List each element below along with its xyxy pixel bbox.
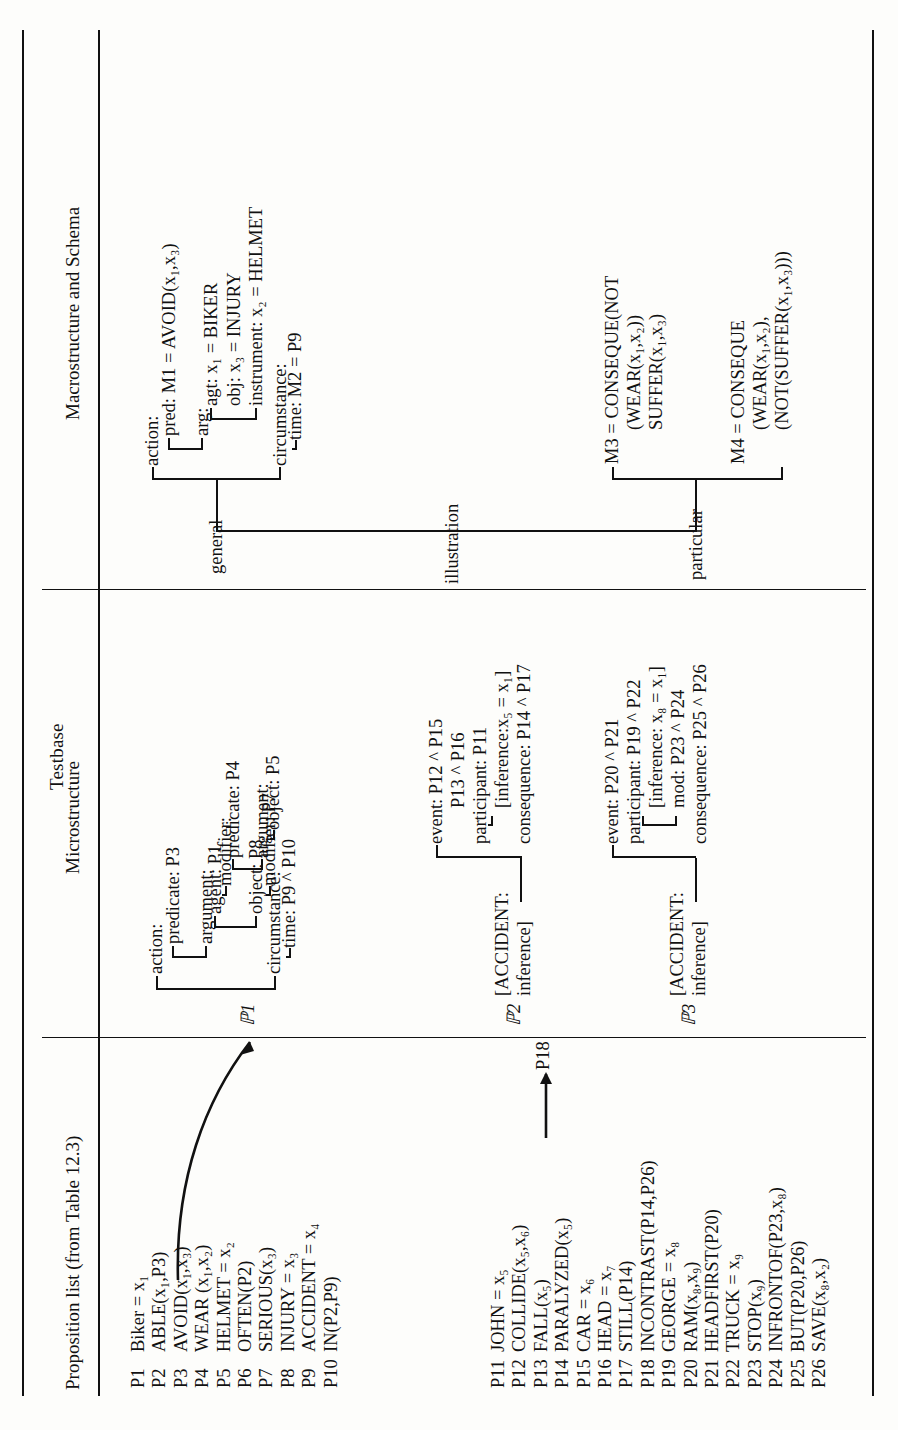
macro-node-time: time: M2 = P9 <box>285 332 306 440</box>
macro-particular-bracket-bottom <box>781 467 783 480</box>
p3-node-consequence: consequence: P25 ^ P26 <box>690 664 711 844</box>
macro-node-pred: pred: M1 = AVOID(x₁,x₃) <box>159 243 180 436</box>
p3-participant-arm-bottom <box>675 816 677 826</box>
p3-head-line-1: [ACCIDENT: <box>667 892 688 996</box>
macro-branch-particular: particular <box>686 509 707 580</box>
figure-page: Testbase Proposition list (from Table 12… <box>0 0 898 1430</box>
macro-node-agt: agt: x₁ = BIKER <box>201 283 222 406</box>
macro-general-bracket-bottom <box>279 467 281 480</box>
macro-node-instrument: instrument: x₂ = HELMET <box>246 207 267 406</box>
macro-general-bracket-stem <box>152 479 280 481</box>
macro-m3-line-3: SUFFER(x₁,x₃) <box>646 314 667 430</box>
p3-root-bracket-stem <box>612 857 696 859</box>
macro-arg-bracket-stem <box>210 419 256 421</box>
macro-arm-general <box>216 480 218 532</box>
p3-root-bracket-top <box>612 845 614 858</box>
macro-action-bracket-bottom <box>201 438 203 450</box>
macro-m3-line-2: (WEAR(x₁,x₂)) <box>624 315 645 430</box>
macro-arg-bracket-bottom <box>255 408 257 420</box>
macro-particular-bracket-top <box>612 467 614 480</box>
macro-m4-line-2: (WEAR(x₁,x₂), <box>750 316 771 430</box>
macro-arm-particular <box>695 480 697 532</box>
p3-head-line-2: inference] <box>689 921 710 996</box>
macro-m3-line-1: M3 = CONSEQUE(NOT <box>602 276 623 464</box>
macro-circumstance-arm <box>295 440 297 450</box>
macro-branch-illustration: illustration <box>442 504 463 584</box>
macro-general-bracket-top <box>152 467 154 480</box>
macro-action-bracket-stem <box>168 449 202 451</box>
macro-node-obj: obj: x₃ = INJURY <box>224 272 245 406</box>
figure-viewport: Testbase Proposition list (from Table 12… <box>0 0 898 1430</box>
p3-participant-stem <box>642 825 676 827</box>
macro-m4-line-1: M4 = CONSEQUE <box>728 320 749 464</box>
p3-node-inference: [inference: x₈ = x₁] <box>646 666 667 808</box>
p3-participant-arm-top <box>642 816 644 826</box>
p3-head-connector <box>695 858 697 902</box>
macro-action-bracket-top <box>168 438 170 450</box>
arrow-p18-connector <box>0 0 898 1430</box>
p3-node-event: event: P20 ^ P21 <box>602 719 623 844</box>
p3-root-label: ℙ︎3 <box>678 1004 700 1026</box>
p3-node-mod: mod: P23 ^ P24 <box>668 690 689 808</box>
macro-m4-line-3: (NOT(SUFFER(x₁,x₃))) <box>772 251 793 430</box>
macro-arg-bracket-top <box>210 408 212 420</box>
macro-particular-bracket-stem <box>612 479 782 481</box>
